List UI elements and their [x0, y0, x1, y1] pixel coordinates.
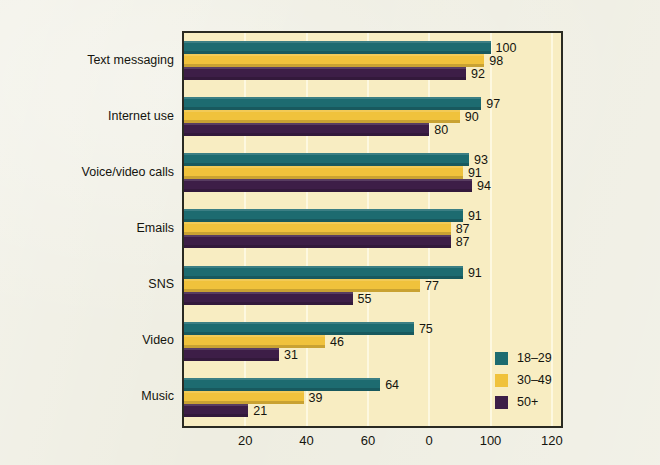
bar — [184, 322, 414, 335]
legend-swatch-30-49 — [495, 374, 508, 387]
bar-highlight — [184, 97, 481, 99]
bar-highlight — [184, 266, 463, 268]
bar-highlight — [184, 67, 466, 69]
bar-value-label: 64 — [385, 379, 399, 392]
legend-swatch-50-plus — [495, 396, 508, 409]
bar — [184, 54, 484, 67]
bar-shadow — [184, 414, 248, 417]
bar-highlight — [184, 235, 451, 237]
bar — [184, 209, 463, 222]
bar-shadow — [184, 133, 429, 136]
legend-label: 50+ — [517, 395, 538, 409]
x-tick-label: 100 — [480, 433, 502, 448]
bar — [184, 153, 469, 166]
bar-value-label: 77 — [425, 280, 439, 293]
bar-highlight — [184, 209, 463, 211]
bar-highlight — [184, 404, 248, 406]
x-tick-label: 60 — [361, 433, 375, 448]
category-label: Music — [0, 389, 174, 403]
legend-label: 30–49 — [517, 373, 552, 387]
bar-highlight — [184, 110, 460, 112]
chart-legend: 18–2930–4950+ — [495, 348, 552, 414]
bar-value-label: 87 — [456, 236, 470, 249]
bar-highlight — [184, 279, 420, 281]
x-tick-label: 0 — [426, 433, 433, 448]
bar — [184, 335, 325, 348]
bar — [184, 378, 380, 391]
bar-shadow — [184, 189, 472, 192]
bar-value-label: 31 — [284, 349, 298, 362]
bar-value-label: 55 — [358, 293, 372, 306]
bar — [184, 179, 472, 192]
category-label: Voice/video calls — [0, 165, 174, 179]
bar-value-label: 80 — [434, 124, 448, 137]
x-tick-label: 40 — [299, 433, 313, 448]
bar — [184, 348, 279, 361]
bar-highlight — [184, 179, 472, 181]
legend-item[interactable]: 18–29 — [495, 348, 552, 368]
bar — [184, 41, 491, 54]
bar-value-label: 91 — [468, 210, 482, 223]
x-tick-label: 20 — [238, 433, 252, 448]
bar-highlight — [184, 222, 451, 224]
bar — [184, 123, 429, 136]
bar-value-label: 21 — [253, 405, 267, 418]
bar — [184, 404, 248, 417]
bar-shadow — [184, 302, 353, 305]
category-label: Emails — [0, 221, 174, 235]
category-label: Internet use — [0, 109, 174, 123]
figure-canvas: Text messagingInternet useVoice/video ca… — [0, 0, 660, 465]
bar-value-label: 97 — [486, 98, 500, 111]
bar-highlight — [184, 391, 304, 393]
gridline-100 — [490, 33, 492, 426]
bar — [184, 67, 466, 80]
bar-value-label: 92 — [471, 68, 485, 81]
legend-swatch-18-29 — [495, 352, 508, 365]
bar-value-label: 98 — [489, 55, 503, 68]
bar-shadow — [184, 245, 451, 248]
bar-shadow — [184, 358, 279, 361]
bar-highlight — [184, 292, 353, 294]
category-label: Text messaging — [0, 53, 174, 67]
bar-highlight — [184, 348, 279, 350]
legend-item[interactable]: 50+ — [495, 392, 552, 412]
legend-item[interactable]: 30–49 — [495, 370, 552, 390]
bar — [184, 110, 460, 123]
bar-value-label: 39 — [309, 392, 323, 405]
bar-value-label: 94 — [477, 180, 491, 193]
x-tick-label: 120 — [541, 433, 563, 448]
bar-highlight — [184, 335, 325, 337]
bar-highlight — [184, 378, 380, 380]
bar-value-label: 91 — [468, 267, 482, 280]
category-label: Video — [0, 333, 174, 347]
bar-value-label: 75 — [419, 323, 433, 336]
bar — [184, 279, 420, 292]
bar — [184, 292, 353, 305]
bar — [184, 97, 481, 110]
legend-label: 18–29 — [517, 351, 552, 365]
bar-highlight — [184, 41, 491, 43]
bar-highlight — [184, 153, 469, 155]
bar — [184, 222, 451, 235]
bar — [184, 391, 304, 404]
bar — [184, 166, 463, 179]
bar-highlight — [184, 54, 484, 56]
bar-value-label: 46 — [330, 336, 344, 349]
bar — [184, 266, 463, 279]
bar-shadow — [184, 77, 466, 80]
category-label: SNS — [0, 277, 174, 291]
bar-highlight — [184, 166, 463, 168]
bar-highlight — [184, 123, 429, 125]
bar — [184, 235, 451, 248]
bar-value-label: 90 — [465, 111, 479, 124]
bar-highlight — [184, 322, 414, 324]
